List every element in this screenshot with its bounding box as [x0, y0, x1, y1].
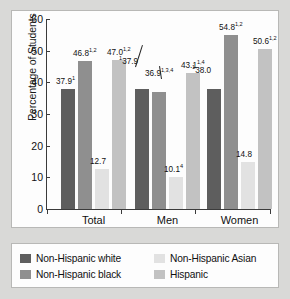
- legend-label: Non-Hispanic Asian: [170, 253, 256, 264]
- legend-swatch-icon: [20, 254, 31, 263]
- bar-value-label: 50.61,2: [253, 38, 277, 46]
- bar-value-label: 14.8: [236, 151, 252, 159]
- y-tick-label: 0: [12, 204, 46, 215]
- bar[interactable]: [95, 169, 109, 209]
- y-tick-label: 10: [12, 172, 46, 183]
- x-tick-label-men: Men: [157, 214, 178, 226]
- bar[interactable]: [241, 162, 255, 209]
- legend-item[interactable]: Non-Hispanic white: [20, 250, 154, 266]
- bar-value-label: 12.7: [90, 158, 106, 166]
- x-tick-label-women: Women: [221, 214, 259, 226]
- bar[interactable]: [169, 177, 183, 209]
- bar-group: 138.054.81,214.850.61,2: [207, 19, 272, 209]
- legend-swatch-icon: [20, 270, 31, 279]
- legend-label: Non-Hispanic black: [36, 269, 121, 280]
- legend-label: Hispanic: [170, 269, 208, 280]
- legend-label: Non-Hispanic white: [36, 253, 121, 264]
- bar-group: 37.9146.81,212.747.01,2: [61, 19, 126, 209]
- bar-value-label: 46.81,2: [73, 50, 97, 58]
- x-tick-mark: [47, 209, 48, 214]
- x-tick-mark: [270, 209, 271, 214]
- chart-figure: Percentage of Students 0102030405060 37.…: [0, 0, 290, 299]
- x-tick-label-total: Total: [82, 214, 105, 226]
- y-tick-label: 20: [12, 140, 46, 151]
- x-axis-line: [46, 209, 270, 210]
- bar[interactable]: [152, 92, 166, 209]
- bar-value-label: 10.14: [164, 166, 183, 174]
- bar[interactable]: [186, 73, 200, 209]
- label-leader-line: [135, 45, 143, 67]
- bar[interactable]: [258, 49, 272, 209]
- legend-swatch-icon: [154, 254, 165, 263]
- x-tick-mark: [195, 209, 196, 214]
- bar[interactable]: [135, 89, 149, 209]
- bars-area: 37.9146.81,212.747.01,2137.936.91,3,410.…: [47, 19, 270, 209]
- bar-value-label: 37.91: [56, 78, 75, 86]
- bar-value-label: 54.81,2: [219, 24, 243, 32]
- plot-panel: Percentage of Students 0102030405060 37.…: [11, 10, 279, 228]
- bar-value-label: 138.0: [192, 67, 211, 75]
- y-tick-label: 50: [12, 45, 46, 56]
- legend-item[interactable]: Non-Hispanic Asian: [154, 250, 280, 266]
- legend-item[interactable]: Non-Hispanic black: [20, 266, 154, 282]
- bar[interactable]: [78, 61, 92, 209]
- x-tick-mark: [121, 209, 122, 214]
- legend-item[interactable]: Hispanic: [154, 266, 280, 282]
- y-tick-label: 40: [12, 77, 46, 88]
- bar[interactable]: [224, 35, 238, 209]
- y-tick-label: 60: [12, 14, 46, 25]
- chart-legend: Non-Hispanic whiteNon-Hispanic AsianNon-…: [11, 243, 279, 288]
- bar[interactable]: [61, 89, 75, 209]
- bar-group: 137.936.91,3,410.1443.11,4: [135, 19, 200, 209]
- legend-swatch-icon: [154, 270, 165, 279]
- y-tick-label: 30: [12, 109, 46, 120]
- bar[interactable]: [112, 60, 126, 209]
- bar[interactable]: [207, 89, 221, 209]
